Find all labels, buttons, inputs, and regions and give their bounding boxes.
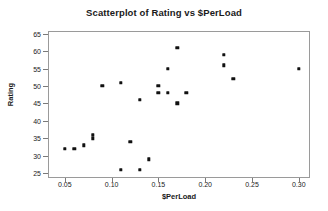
y-axis-title: Rating [6, 67, 15, 123]
y-tick-label: 40 [23, 117, 41, 124]
x-tick-mark [65, 178, 66, 182]
y-tick-mark [43, 86, 48, 87]
y-tick-label: 55 [23, 65, 41, 72]
y-tick-mark [43, 69, 48, 70]
y-tick-mark [43, 103, 48, 104]
y-tick-label: 65 [23, 30, 41, 37]
y-tick-label: 30 [23, 152, 41, 159]
x-tick-mark [158, 178, 159, 182]
x-tick-label: 0.20 [189, 181, 221, 188]
y-tick-mark [43, 156, 48, 157]
x-tick-mark [112, 178, 113, 182]
y-tick-label: 35 [23, 135, 41, 142]
x-axis-title: $PerLoad [48, 192, 310, 201]
y-tick-mark [43, 138, 48, 139]
y-tick-label: 60 [23, 48, 41, 55]
y-tick-label: 50 [23, 83, 41, 90]
x-tick-label: 0.10 [96, 181, 128, 188]
y-tick-mark [43, 173, 48, 174]
x-tick-mark [252, 178, 253, 182]
x-tick-label: 0.25 [236, 181, 268, 188]
plot-area-frame [48, 31, 310, 178]
y-tick-label: 25 [23, 170, 41, 177]
scatterplot-figure: Scatterplot of Rating vs $PerLoad 253035… [0, 0, 328, 211]
y-tick-mark [43, 51, 48, 52]
y-tick-mark [43, 121, 48, 122]
x-tick-mark [299, 178, 300, 182]
x-tick-label: 0.05 [49, 181, 81, 188]
x-tick-mark [205, 178, 206, 182]
y-tick-label: 45 [23, 100, 41, 107]
chart-title: Scatterplot of Rating vs $PerLoad [0, 7, 328, 18]
x-tick-label: 0.30 [283, 181, 315, 188]
x-tick-label: 0.15 [142, 181, 174, 188]
y-tick-mark [43, 34, 48, 35]
